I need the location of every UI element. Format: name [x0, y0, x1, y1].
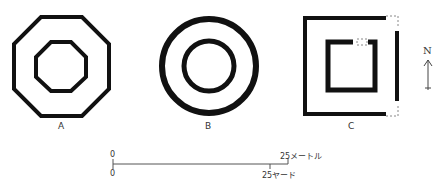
figure-c-square: [305, 16, 398, 116]
scale-top-start: 0: [110, 150, 115, 159]
north-arrow-icon: [424, 60, 432, 90]
scale-bar: [113, 159, 288, 169]
north-label: N: [423, 45, 432, 56]
figure-b-circle: [162, 19, 256, 113]
figure-a-octagon: [14, 17, 109, 116]
scale-top-end: 25メートル: [280, 150, 322, 161]
scale-bottom-end: 25ヤード: [262, 169, 296, 180]
figure-c-label: C: [348, 121, 354, 131]
scale-bottom-start: 0: [110, 169, 115, 178]
figure-b-label: B: [205, 121, 211, 131]
diagram-canvas: [0, 0, 435, 185]
figure-a-label: A: [58, 121, 64, 131]
